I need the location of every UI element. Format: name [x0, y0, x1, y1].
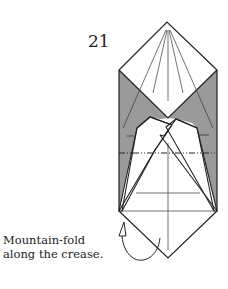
origami-diagram: [0, 0, 228, 289]
mountain-fold-arrow: [119, 222, 160, 260]
